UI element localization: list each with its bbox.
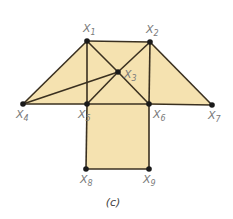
node-x1 bbox=[84, 38, 90, 44]
node-x5 bbox=[84, 101, 90, 107]
graph-diagram: X1X2X3X4X5X6X7X8X9 (c) bbox=[0, 0, 233, 219]
node-x8 bbox=[83, 166, 89, 172]
node-x6 bbox=[146, 101, 152, 107]
node-x9 bbox=[146, 166, 152, 172]
node-label-x9: X9 bbox=[142, 173, 156, 188]
node-label-x4: X4 bbox=[15, 108, 29, 123]
edge-x1-x2 bbox=[87, 41, 150, 42]
node-label-x7: X7 bbox=[207, 109, 222, 124]
edge-x2-x6 bbox=[149, 42, 150, 104]
lower-region bbox=[86, 104, 149, 169]
caption: (c) bbox=[106, 196, 121, 209]
node-x3 bbox=[115, 69, 121, 75]
node-x2 bbox=[147, 39, 153, 45]
node-x7 bbox=[209, 102, 215, 108]
node-label-x2: X2 bbox=[145, 23, 159, 38]
node-x4 bbox=[20, 101, 26, 107]
edge-x6-x7 bbox=[149, 104, 212, 105]
node-label-x6: X6 bbox=[152, 108, 166, 123]
node-label-x8: X8 bbox=[79, 173, 93, 188]
node-label-x1: X1 bbox=[82, 22, 96, 37]
